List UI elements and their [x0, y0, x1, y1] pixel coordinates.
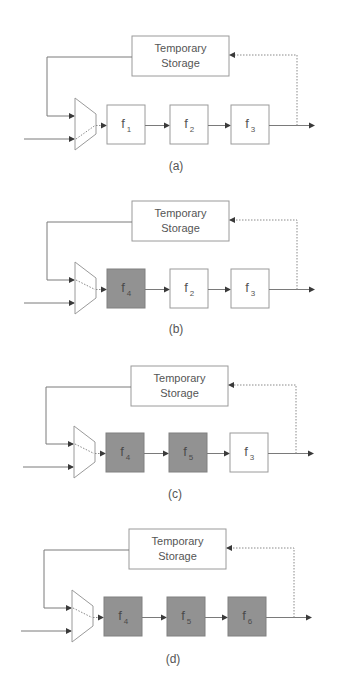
arrowhead-icon [66, 605, 72, 611]
stage-subscript: 3 [251, 289, 256, 298]
arrowhead-icon [164, 287, 170, 293]
stage-label: f [184, 280, 188, 295]
storage-label-line1: Temporary [155, 207, 207, 219]
arrowhead-icon [309, 123, 315, 129]
stage-label: f [120, 444, 124, 459]
storage-label-line2: Storage [161, 57, 200, 69]
stage-label: f [245, 116, 249, 131]
multiplexer [75, 98, 96, 150]
panel-a: TemporaryStoragef1f2f3(a) [24, 36, 315, 173]
arrowhead-icon [308, 451, 314, 457]
arrowhead-icon [69, 277, 75, 283]
panel-caption: (b) [169, 322, 184, 336]
arrowhead-icon [309, 287, 315, 293]
arrowhead-icon [163, 451, 169, 457]
stage-label: f [245, 280, 249, 295]
stage-f3: f3 [231, 105, 269, 144]
stage-label: f [184, 116, 188, 131]
stage-f2: f2 [170, 269, 208, 308]
storage-label-line1: Temporary [154, 372, 206, 384]
arrowhead-icon [68, 464, 74, 470]
stage-subscript: 4 [124, 617, 129, 626]
arrowhead-icon [68, 441, 74, 447]
pipeline-reconfiguration-diagram: TemporaryStoragef1f2f3(a)TemporaryStorag… [0, 0, 361, 695]
stage-f6: f6 [228, 597, 266, 636]
arrowhead-icon [226, 545, 232, 551]
stage-f4: f4 [107, 269, 145, 308]
storage-label-line1: Temporary [152, 535, 204, 547]
panel-b: TemporaryStoragef4f2f3(b) [24, 201, 315, 336]
panel-d: TemporaryStoragef4f5f6(d) [21, 529, 312, 666]
arrowhead-icon [69, 113, 75, 119]
arrowhead-icon [306, 615, 312, 621]
arrowhead-icon [224, 451, 230, 457]
panel-caption: (d) [166, 652, 181, 666]
stage-label: f [181, 608, 185, 623]
stage-f1: f1 [107, 105, 145, 144]
stage-label: f [118, 608, 122, 623]
stage-subscript: 5 [189, 453, 194, 462]
arrowhead-icon [98, 615, 104, 621]
stage-label: f [121, 280, 125, 295]
arrowhead-icon [229, 217, 235, 223]
stage-subscript: 5 [187, 617, 192, 626]
arrowhead-icon [66, 628, 72, 634]
stage-subscript: 2 [190, 125, 195, 134]
arrowhead-icon [69, 136, 75, 142]
stage-subscript: 3 [251, 125, 256, 134]
stage-label: f [121, 116, 125, 131]
storage-label-line2: Storage [161, 222, 200, 234]
storage-label-line2: Storage [158, 550, 197, 562]
stage-f4: f4 [106, 433, 144, 472]
stage-label: f [183, 444, 187, 459]
stage-label: f [244, 444, 248, 459]
arrowhead-icon [225, 287, 231, 293]
stage-subscript: 2 [190, 289, 195, 298]
panel-caption: (a) [169, 159, 184, 173]
arrowhead-icon [69, 300, 75, 306]
stage-label: f [242, 608, 246, 623]
stage-subscript: 3 [250, 453, 255, 462]
storage-label-line2: Storage [160, 387, 199, 399]
stage-f4: f4 [104, 597, 142, 636]
stage-f3: f3 [231, 269, 269, 308]
stage-subscript: 1 [127, 125, 132, 134]
arrowhead-icon [101, 123, 107, 129]
arrowhead-icon [225, 123, 231, 129]
arrowhead-icon [228, 382, 234, 388]
stage-f5: f5 [169, 433, 207, 472]
arrowhead-icon [101, 287, 107, 293]
stage-f5: f5 [167, 597, 205, 636]
arrowhead-icon [229, 52, 235, 58]
stage-subscript: 4 [126, 453, 131, 462]
stage-subscript: 4 [127, 289, 132, 298]
arrowhead-icon [164, 123, 170, 129]
storage-label-line1: Temporary [155, 42, 207, 54]
arrowhead-icon [161, 615, 167, 621]
panel-caption: (c) [168, 487, 182, 501]
stage-subscript: 6 [248, 617, 253, 626]
stage-f3: f3 [230, 433, 268, 472]
arrowhead-icon [100, 451, 106, 457]
panel-c: TemporaryStoragef4f5f3(c) [23, 366, 314, 501]
stage-f2: f2 [170, 105, 208, 144]
arrowhead-icon [222, 615, 228, 621]
